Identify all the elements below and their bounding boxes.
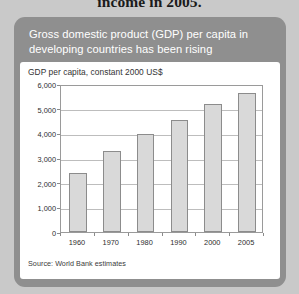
bar	[204, 104, 222, 232]
gridline	[61, 160, 262, 161]
y-axis-tick-label: 1,000	[38, 204, 57, 213]
figure-card: Gross domestic product (GDP) per capita …	[14, 17, 286, 287]
y-axis-tick-label: 2,000	[38, 179, 57, 188]
y-axis-tick-label: 0	[52, 229, 56, 238]
x-axis-tick-label: 1970	[103, 238, 119, 247]
figure-title: Gross domestic product (GDP) per capita …	[29, 27, 269, 57]
y-axis-tick	[57, 159, 60, 160]
plot-area	[60, 85, 263, 233]
y-axis-tick-label: 5,000	[38, 105, 57, 114]
gridline	[61, 135, 262, 136]
y-axis-tick	[57, 109, 60, 110]
y-axis-tick	[57, 85, 60, 86]
x-axis-tick-label: 2005	[238, 238, 254, 247]
bar	[69, 173, 87, 232]
y-axis-tick-label: 6,000	[38, 81, 57, 90]
x-axis-tick	[263, 233, 264, 236]
x-axis-tick-label: 2000	[204, 238, 220, 247]
y-axis-tick	[57, 134, 60, 135]
y-axis-tick	[57, 183, 60, 184]
gridline	[61, 110, 262, 111]
y-axis-tick-label: 3,000	[38, 155, 57, 164]
x-axis-tick	[229, 233, 230, 236]
x-axis-tick-label: 1980	[136, 238, 152, 247]
bar	[238, 93, 256, 232]
bar	[137, 134, 155, 232]
chart-axis-unit-label: GDP per capita, constant 2000 US$	[28, 67, 163, 77]
y-axis-tick	[57, 208, 60, 209]
chart-source: Source: World Bank estimates	[28, 259, 126, 268]
x-axis-tick-label: 1960	[69, 238, 85, 247]
x-axis-tick	[60, 233, 61, 236]
x-axis-tick	[195, 233, 196, 236]
x-axis-tick	[94, 233, 95, 236]
page-heading: income in 2005.	[0, 0, 299, 13]
x-axis-tick	[162, 233, 163, 236]
y-axis-tick-label: 4,000	[38, 130, 57, 139]
plot-wrap: 01,0002,0003,0004,0005,0006,000196019701…	[60, 85, 263, 233]
x-axis-tick	[128, 233, 129, 236]
gridline	[61, 184, 262, 185]
x-axis-tick-label: 1990	[170, 238, 186, 247]
gridline	[61, 209, 262, 210]
bar	[103, 151, 121, 232]
bar	[171, 120, 189, 232]
chart-panel: GDP per capita, constant 2000 US$ 01,000…	[20, 62, 280, 279]
